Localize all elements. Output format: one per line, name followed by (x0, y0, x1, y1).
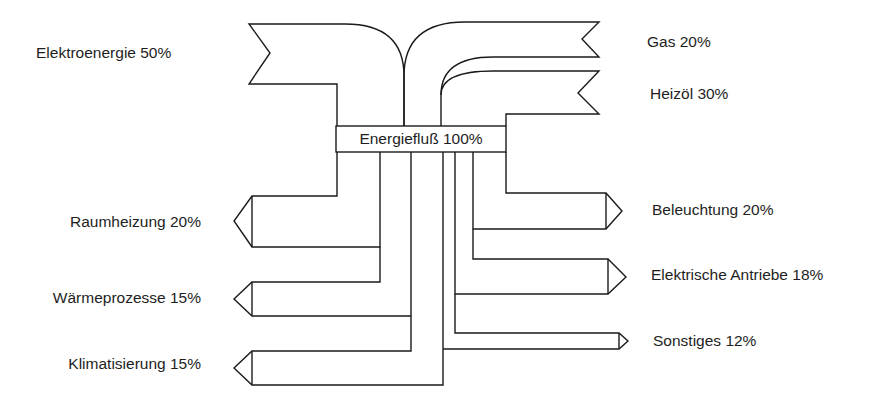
flow-sonstiges (443, 294, 628, 349)
center-label: Energiefluß 100% (336, 126, 506, 152)
flow-beleuchtung (473, 152, 622, 229)
flow-heizoel (441, 71, 599, 126)
label-elektrische-antriebe: Elektrische Antriebe 18% (651, 267, 823, 283)
label-beleuchtung: Beleuchtung 20% (652, 202, 774, 218)
flow-raumheizung (234, 152, 380, 247)
label-waermeprozesse: Wärmeprozesse 15% (53, 290, 201, 306)
flow-elektroenergie (249, 24, 404, 126)
flow-elektrische-antriebe (455, 152, 626, 294)
label-klimatisierung: Klimatisierung 15% (68, 356, 201, 372)
label-gas: Gas 20% (647, 34, 711, 50)
label-heizoel: Heizöl 30% (650, 86, 728, 102)
label-elektroenergie: Elektroenergie 50% (36, 45, 171, 61)
flow-gas-outer (404, 22, 599, 126)
flow-waermeprozesse (234, 152, 411, 316)
label-sonstiges: Sonstiges 12% (653, 333, 756, 349)
label-raumheizung: Raumheizung 20% (70, 214, 201, 230)
